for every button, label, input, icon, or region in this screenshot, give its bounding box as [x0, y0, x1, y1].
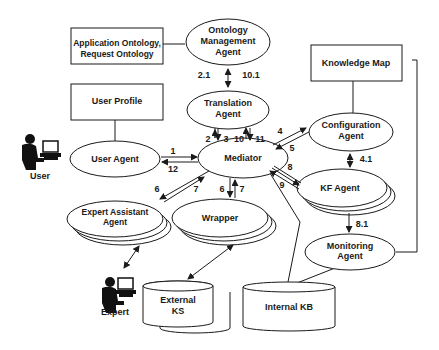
edge-label-2: 2: [205, 134, 210, 144]
edge-label-1: 1: [170, 146, 175, 156]
edge-label-2-1: 2.1: [198, 70, 211, 80]
ontology-management-agent-label-3: Agent: [215, 47, 241, 57]
edge-label-11: 11: [255, 134, 265, 144]
edge-label-6-down: 6: [219, 184, 224, 194]
configuration-agent-label-1: Configuration: [322, 120, 381, 130]
arrow-wrapper-externalks: [188, 245, 233, 279]
edge-label-10-1: 10.1: [242, 70, 260, 80]
user-actor: User: [22, 134, 61, 181]
external-ks-top: [143, 281, 213, 291]
application-ontology-label-1: Application Ontology,: [73, 38, 161, 48]
mediator-label: Mediator: [224, 153, 262, 163]
external-ks-label-2: KS: [172, 306, 185, 316]
user-agent-label: User Agent: [91, 154, 139, 164]
edge-label-6-left: 6: [154, 184, 159, 194]
edge-label-5: 5: [289, 143, 294, 153]
edge-label-8: 8: [287, 162, 292, 172]
edge-label-8-1: 8.1: [356, 219, 369, 229]
expert-assistant-agent-label-1: Expert Assistant: [82, 207, 149, 217]
translation-agent-label-1: Translation: [204, 98, 252, 108]
monitoring-agent-label-1: Monitoring: [327, 241, 374, 251]
internal-kb-label: Internal KB: [265, 302, 314, 312]
edge-label-9: 9: [279, 180, 284, 190]
architecture-diagram: Ontology Management Agent Application On…: [0, 0, 439, 350]
arrow-expertassistant-expert: [124, 246, 139, 268]
edge-label-10: 10: [234, 134, 244, 144]
internal-kb-top: [243, 282, 335, 292]
kf-agent-label: KF Agent: [320, 183, 360, 193]
ontology-management-agent-label-2: Management: [200, 36, 255, 46]
application-ontology-label-2: Request Ontology: [80, 49, 153, 59]
expert-actor: Expert: [101, 277, 136, 317]
edge-label-4: 4: [277, 126, 282, 136]
edge-label-7-up: 7: [239, 184, 244, 194]
configuration-agent-label-2: Agent: [338, 131, 364, 141]
connector-knowledgemap-monitoring: [396, 60, 417, 252]
knowledge-map-label: Knowledge Map: [322, 58, 391, 68]
connector-monitoring-internalkb: [297, 268, 335, 283]
edge-label-12: 12: [168, 164, 178, 174]
translation-agent-label-2: Agent: [215, 109, 241, 119]
monitoring-agent-label-2: Agent: [337, 251, 363, 261]
user-profile-label: User Profile: [92, 96, 143, 106]
user-actor-label: User: [30, 171, 51, 181]
edge-label-4-1: 4.1: [360, 154, 373, 164]
wrapper-label: Wrapper: [202, 213, 239, 223]
edge-label-3: 3: [223, 134, 228, 144]
ontology-management-agent-label-1: Ontology: [208, 25, 248, 35]
external-ks-label-1: External: [160, 295, 196, 305]
external-ks-node[interactable]: [143, 281, 230, 333]
edge-label-7-left: 7: [193, 184, 198, 194]
expert-assistant-agent-label-2: Agent: [103, 217, 127, 227]
arrow-6-left: [160, 171, 209, 199]
user-computer-icon: [22, 134, 61, 170]
expert-actor-label: Expert: [101, 307, 129, 317]
